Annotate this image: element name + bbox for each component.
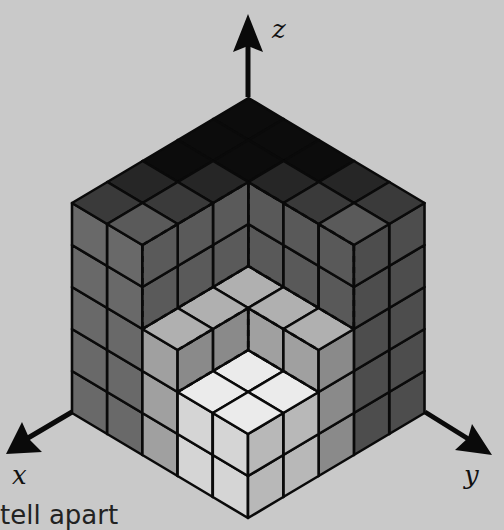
- y-axis-label: y: [464, 460, 479, 490]
- y-axis-arrowhead-icon: [455, 424, 492, 455]
- caption-text: tell apart: [0, 500, 118, 530]
- cube-diagram: [0, 0, 504, 530]
- z-axis-label: z: [272, 14, 286, 44]
- x-axis-line: [28, 412, 72, 438]
- x-axis-label: x: [12, 460, 27, 490]
- x-axis-arrowhead-icon: [6, 422, 42, 454]
- y-axis-line: [425, 412, 470, 440]
